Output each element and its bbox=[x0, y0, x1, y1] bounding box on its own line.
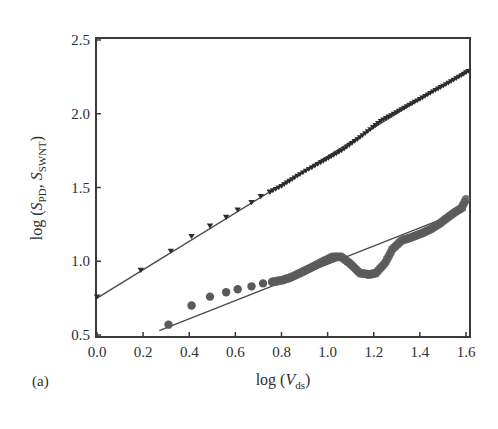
data-point-circle bbox=[187, 301, 195, 309]
chart: 0.00.20.40.60.81.01.21.41.6 0.51.01.52.0… bbox=[0, 0, 498, 429]
data-point-circle bbox=[164, 320, 172, 328]
data-point-circle bbox=[222, 288, 230, 296]
plot-frame bbox=[96, 38, 470, 337]
data-point-circle bbox=[259, 279, 267, 287]
y-tick-label: 2.5 bbox=[71, 32, 90, 48]
x-tick-label: 1.0 bbox=[318, 344, 337, 360]
data-point-circle bbox=[462, 195, 471, 204]
fit-lines bbox=[97, 71, 466, 331]
y-axis-label: log (SPD, SSWNT) bbox=[28, 136, 48, 240]
panel-label: (a) bbox=[32, 373, 49, 390]
y-tick-label: 0.5 bbox=[71, 327, 90, 343]
y-tick-label: 2.0 bbox=[71, 106, 90, 122]
x-tick-label: 0.2 bbox=[134, 344, 153, 360]
x-tick-label: 0.4 bbox=[180, 344, 199, 360]
y-tick-label: 1.5 bbox=[71, 180, 90, 196]
x-tick-label: 0.8 bbox=[272, 344, 291, 360]
x-tick-label: 0.0 bbox=[88, 344, 107, 360]
y-tick-label: 1.0 bbox=[71, 253, 90, 269]
x-axis-label: log (Vds) bbox=[256, 371, 311, 391]
x-tick-label: 1.4 bbox=[411, 344, 430, 360]
x-tick-label: 1.2 bbox=[364, 344, 383, 360]
x-tick-label: 0.6 bbox=[226, 344, 245, 360]
data-point-circle bbox=[206, 292, 214, 300]
x-tick-label: 1.6 bbox=[457, 344, 476, 360]
data-point-circle bbox=[233, 285, 241, 293]
data-point-circle bbox=[247, 282, 255, 290]
series-swnt-circles bbox=[164, 195, 470, 329]
plot-border bbox=[96, 38, 470, 337]
